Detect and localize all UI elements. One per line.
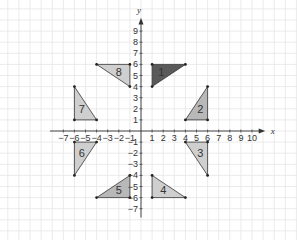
triangle-label: 7 — [79, 103, 85, 115]
x-tick-label: 2 — [161, 133, 166, 143]
vertex-dot — [73, 119, 76, 122]
x-tick-label: −2 — [114, 133, 124, 143]
vertex-dot — [151, 85, 154, 88]
x-tick-label: −5 — [80, 133, 90, 143]
triangle-label: 4 — [160, 184, 166, 196]
vertex-dot — [206, 174, 209, 177]
grid-lines — [0, 0, 297, 240]
vertex-dot — [95, 119, 98, 122]
x-tick-label: −4 — [91, 133, 101, 143]
y-tick-label: −4 — [128, 170, 138, 180]
x-tick-label: −3 — [103, 133, 113, 143]
vertex-dot — [184, 63, 187, 66]
y-tick-label: 8 — [133, 37, 138, 47]
y-tick-label: −5 — [128, 182, 138, 192]
x-tick-label: 9 — [238, 133, 243, 143]
y-tick-label: −3 — [128, 159, 138, 169]
x-tick-label: −6 — [69, 133, 79, 143]
y-tick-label: −2 — [128, 148, 138, 158]
vertex-dot — [184, 119, 187, 122]
grid-canvas: 12345678 −7−6−5−4−3−2−112345678910987654… — [0, 0, 297, 240]
x-tick-label: 6 — [205, 133, 210, 143]
y-axis-label: y — [136, 5, 141, 15]
vertex-dot — [184, 196, 187, 199]
triangle-label: 8 — [116, 66, 122, 78]
vertex-dot — [129, 85, 132, 88]
x-tick-label: −7 — [58, 133, 68, 143]
y-tick-label: 5 — [133, 71, 138, 81]
vertex-dot — [151, 196, 154, 199]
x-tick-label: 7 — [216, 133, 221, 143]
vertex-dot — [151, 174, 154, 177]
vertex-dot — [73, 174, 76, 177]
triangle-label: 6 — [79, 147, 85, 159]
y-tick-label: 1 — [133, 115, 138, 125]
vertex-dot — [95, 196, 98, 199]
coordinate-grid-diagram: 12345678 −7−6−5−4−3−2−112345678910987654… — [0, 0, 297, 240]
triangle-label: 5 — [116, 184, 122, 196]
triangle-label: 3 — [197, 147, 203, 159]
vertex-dot — [73, 85, 76, 88]
triangle-label: 1 — [158, 66, 164, 78]
y-tick-label: −1 — [128, 137, 138, 147]
vertex-dot — [129, 63, 132, 66]
y-tick-label: 6 — [133, 59, 138, 69]
y-tick-label: 3 — [133, 93, 138, 103]
x-tick-label: 10 — [247, 133, 257, 143]
y-tick-label: 9 — [133, 26, 138, 36]
vertex-dot — [95, 63, 98, 66]
x-tick-label: 5 — [194, 133, 199, 143]
triangle-label: 2 — [197, 103, 203, 115]
x-axis-label: x — [270, 126, 275, 136]
y-tick-label: −7 — [128, 204, 138, 214]
x-tick-label: 4 — [183, 133, 188, 143]
vertex-dot — [151, 63, 154, 66]
y-tick-label: 2 — [133, 104, 138, 114]
y-tick-label: 4 — [133, 82, 138, 92]
vertex-dot — [206, 85, 209, 88]
y-tick-label: −6 — [128, 193, 138, 203]
vertex-dot — [206, 119, 209, 122]
x-tick-label: 1 — [150, 133, 155, 143]
x-axis-arrow-icon — [259, 129, 266, 134]
x-tick-label: 8 — [227, 133, 232, 143]
y-tick-label: 7 — [133, 48, 138, 58]
y-axis-arrow-icon — [139, 18, 144, 25]
x-tick-label: 3 — [172, 133, 177, 143]
axis-tick-labels: −7−6−5−4−3−2−112345678910987654321−1−2−3… — [58, 5, 274, 213]
